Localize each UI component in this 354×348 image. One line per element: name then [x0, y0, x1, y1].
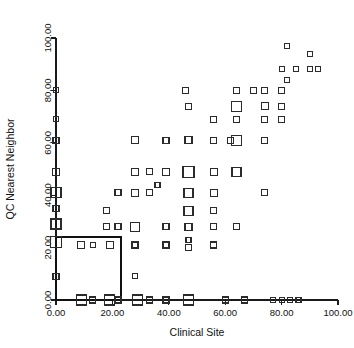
y-axis-title: QC Nearest Neighbor — [4, 118, 16, 219]
selection-rectangle[interactable] — [56, 237, 121, 300]
x-tick-label: 20.00 — [101, 307, 125, 318]
data-point-marker — [262, 87, 268, 93]
data-point-marker — [104, 224, 110, 230]
x-tick-label: 80.00 — [270, 307, 294, 318]
data-point-marker — [293, 67, 298, 72]
data-point-marker — [185, 223, 192, 230]
data-point-marker — [146, 190, 152, 196]
data-point-marker — [186, 103, 192, 109]
data-point-marker — [211, 242, 217, 248]
data-point-marker — [233, 87, 239, 93]
data-point-marker — [285, 43, 290, 48]
data-point-marker — [279, 67, 284, 72]
data-point-marker — [155, 182, 160, 187]
data-point-marker — [184, 206, 193, 215]
selection-box[interactable] — [56, 237, 121, 300]
axes-group — [56, 38, 338, 300]
data-point-marker — [262, 116, 268, 122]
data-point-marker — [184, 188, 193, 197]
data-point-marker — [250, 87, 256, 93]
data-point-marker — [185, 137, 192, 144]
data-point-marker — [211, 116, 217, 122]
data-point-marker — [115, 190, 121, 196]
data-point-marker — [132, 242, 138, 248]
data-point-marker — [210, 189, 217, 196]
data-point-marker — [232, 167, 241, 176]
data-point-marker — [307, 51, 312, 56]
data-point-marker — [261, 103, 268, 110]
x-tick-label: 40.00 — [157, 307, 181, 318]
data-point-marker — [231, 101, 241, 111]
data-point-marker — [285, 77, 290, 82]
x-tick-label: 100.00 — [323, 307, 352, 318]
data-point-marker — [162, 168, 169, 175]
data-point-marker — [131, 189, 138, 196]
data-point-marker — [279, 103, 285, 109]
data-point-marker — [211, 224, 217, 230]
data-point-marker — [279, 116, 285, 122]
y-tick-label: 0.00 — [42, 291, 53, 310]
data-point-marker — [186, 237, 191, 242]
plot-canvas: 0.0020.0040.0060.0080.00100.000.0020.004… — [0, 0, 354, 348]
data-point-marker — [115, 224, 121, 230]
data-point-marker — [211, 137, 217, 143]
data-point-marker — [131, 168, 138, 175]
data-point-marker — [90, 242, 95, 247]
data-point-marker — [106, 241, 113, 248]
data-point-marker — [130, 222, 139, 231]
data-point-marker — [163, 242, 169, 248]
data-point-marker — [183, 87, 189, 93]
data-markers-group — [51, 43, 321, 305]
x-axis-title: Clinical Site — [170, 326, 225, 338]
data-point-marker — [132, 274, 137, 279]
data-point-marker — [228, 137, 234, 143]
data-point-marker — [104, 208, 110, 214]
data-point-marker — [183, 166, 194, 177]
scatter-plot-figure: 0.0020.0040.0060.0080.00100.000.0020.004… — [0, 0, 354, 348]
y-tick-label: 100.00 — [42, 23, 53, 52]
data-point-marker — [210, 168, 217, 175]
data-point-marker — [307, 67, 312, 72]
data-point-marker — [233, 224, 239, 230]
tick-labels-group: 0.0020.0040.0060.0080.00100.000.0020.004… — [42, 23, 353, 318]
data-point-marker — [316, 67, 321, 72]
data-point-marker — [262, 137, 268, 143]
data-point-marker — [262, 190, 268, 196]
data-point-marker — [186, 245, 192, 251]
data-point-marker — [233, 116, 239, 122]
data-point-marker — [131, 137, 138, 144]
y-tick-label: 60.00 — [42, 131, 53, 155]
data-point-marker — [146, 169, 152, 175]
x-tick-label: 60.00 — [213, 307, 237, 318]
data-point-marker — [279, 87, 285, 93]
data-point-marker — [163, 224, 169, 230]
data-point-marker — [163, 137, 169, 143]
data-point-marker — [78, 241, 85, 248]
y-tick-label: 80.00 — [42, 79, 53, 103]
data-point-marker — [211, 208, 217, 214]
